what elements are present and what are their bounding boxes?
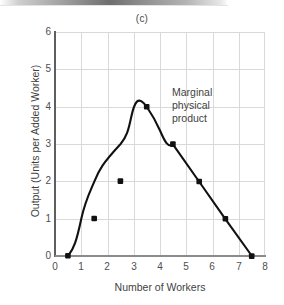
x-tick-label-2: 2 — [100, 261, 114, 272]
x-axis-label: Number of Workers — [55, 281, 265, 293]
figure-panel-c: (c) 0 1 2 3 — [0, 0, 284, 305]
x-tick-label-3: 3 — [127, 261, 141, 272]
curve-annotation-line-3: product — [172, 112, 212, 125]
page-title: (c) — [0, 13, 284, 24]
scan-edge-artifact-shadow — [0, 5, 228, 6]
x-tick-label-7: 7 — [232, 261, 246, 272]
x-tick-label-1: 1 — [74, 261, 88, 272]
x-tick-label-4: 4 — [153, 261, 167, 272]
x-tick-label-5: 5 — [179, 261, 193, 272]
gridline-horizontal-1 — [55, 219, 265, 220]
gridline-horizontal-6 — [55, 32, 265, 33]
curve-annotation-line-1: Marginal — [172, 86, 212, 99]
gridline-horizontal-2 — [55, 181, 265, 182]
x-tick-label-6: 6 — [205, 261, 219, 272]
x-axis-line — [55, 255, 266, 257]
curve-annotation: Marginal physical product — [172, 86, 212, 125]
x-tick-label-8: 8 — [258, 261, 272, 272]
x-tick-label-0: 0 — [48, 261, 62, 272]
y-axis-label: Output (Units per Added Worker) — [29, 26, 41, 256]
gridline-horizontal-5 — [55, 69, 265, 70]
gridline-horizontal-4 — [55, 107, 265, 108]
y-axis-line — [54, 31, 56, 257]
plot-area — [55, 32, 265, 256]
gridline-horizontal-3 — [55, 144, 265, 145]
curve-annotation-line-2: physical — [172, 99, 212, 112]
